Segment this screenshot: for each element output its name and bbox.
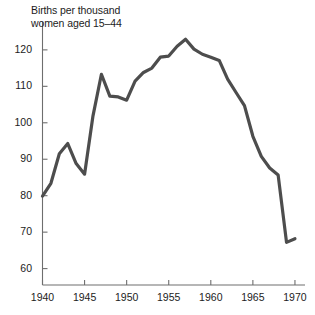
y-tick-label: 120 xyxy=(4,43,32,55)
y-tick-label: 70 xyxy=(4,225,32,237)
x-tick-label: 1970 xyxy=(275,291,315,303)
x-tick-label: 1960 xyxy=(191,291,231,303)
x-tick-label: 1955 xyxy=(149,291,189,303)
y-tick-label: 90 xyxy=(4,152,32,164)
y-tick-label: 100 xyxy=(4,116,32,128)
birth-rate-series-line xyxy=(43,39,295,242)
chart-title-line-1: Births per thousand xyxy=(31,4,120,17)
x-tick-label: 1950 xyxy=(107,291,147,303)
y-tick-label: 110 xyxy=(4,79,32,91)
x-tick-label: 1940 xyxy=(23,291,63,303)
birth-rate-line-chart: Births per thousand women aged 15–44 607… xyxy=(0,0,315,315)
x-tick-label: 1945 xyxy=(65,291,105,303)
chart-title-line-2: women aged 15–44 xyxy=(31,17,122,30)
x-tick-label: 1965 xyxy=(233,291,273,303)
y-tick-label: 80 xyxy=(4,189,32,201)
y-tick-label: 60 xyxy=(4,262,32,274)
axis-lines xyxy=(43,22,306,285)
plot-area xyxy=(0,0,315,315)
